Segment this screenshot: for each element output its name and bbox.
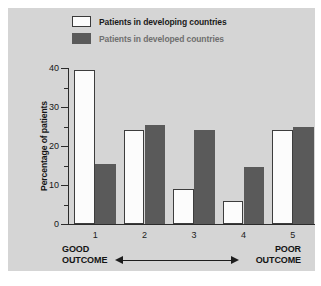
y-axis-line [68, 68, 69, 225]
good-outcome-line2: OUTCOME [62, 255, 107, 265]
bar-developing [272, 130, 293, 224]
bar-developing [74, 70, 95, 224]
outcome-arrow-icon [115, 256, 239, 265]
x-tick-label: 2 [142, 230, 147, 240]
y-tick-label: 10 [49, 181, 59, 190]
bar-developed [194, 130, 215, 224]
y-tick-minor [64, 88, 69, 89]
bar-developing [173, 189, 194, 224]
poor-outcome-line1: POOR [275, 244, 301, 254]
y-tick-major [61, 107, 68, 108]
x-tick-label: 4 [241, 230, 246, 240]
y-tick-minor [64, 205, 69, 206]
outcome-annotation: GOOD OUTCOME POOR OUTCOME [8, 244, 315, 270]
x-tick-label: 3 [191, 230, 196, 240]
x-tick-label: 1 [93, 230, 98, 240]
bar-developing [223, 201, 244, 224]
legend-swatch-developed-icon [72, 33, 91, 44]
bar-developed [145, 125, 166, 224]
plot-area: 010203040 12345 [68, 68, 315, 224]
y-tick-minor [64, 127, 69, 128]
legend-item-developed: Patients in developed countries [72, 31, 292, 46]
legend-item-developing: Patients in developing countries [72, 14, 292, 29]
y-tick-label: 40 [49, 64, 59, 73]
bar-developed [244, 167, 265, 224]
y-tick-major [61, 146, 68, 147]
x-axis-line [68, 224, 315, 225]
y-tick-label: 30 [49, 103, 59, 112]
poor-outcome-label: POOR OUTCOME [256, 244, 301, 265]
legend-label-developed: Patients in developed countries [99, 34, 224, 44]
y-axis-title-text: Percentage of patients [39, 101, 49, 191]
good-outcome-label: GOOD OUTCOME [62, 244, 107, 265]
bar-developing [124, 130, 145, 224]
arrow-head-right-icon [231, 256, 239, 264]
x-tick-label: 5 [290, 230, 295, 240]
arrow-line [121, 260, 233, 261]
y-tick-major [61, 185, 68, 186]
legend-swatch-developing-icon [72, 16, 91, 27]
poor-outcome-line2: OUTCOME [256, 255, 301, 265]
chart-figure: Patients in developing countries Patient… [8, 8, 315, 271]
good-outcome-line1: GOOD [62, 244, 89, 254]
y-tick-major [61, 224, 68, 225]
legend-label-developing: Patients in developing countries [99, 17, 227, 27]
y-tick-label: 20 [49, 142, 59, 151]
bar-developed [95, 164, 116, 224]
bar-developed [293, 127, 314, 225]
y-tick-major [61, 68, 68, 69]
y-tick-minor [64, 166, 69, 167]
chart-legend: Patients in developing countries Patient… [72, 14, 292, 48]
y-tick-label: 0 [54, 220, 59, 229]
